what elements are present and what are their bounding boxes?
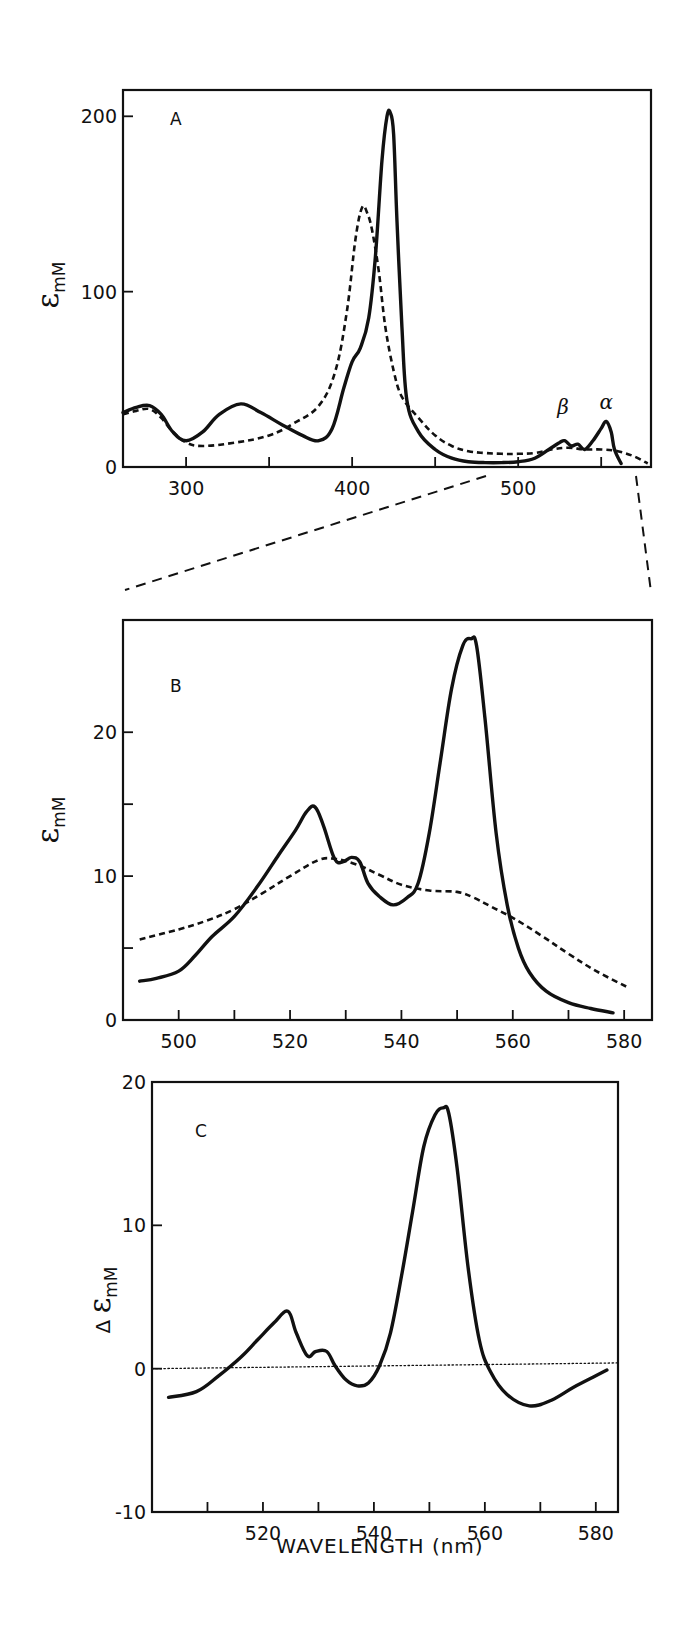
x-tick-label: 400 [334,477,370,499]
plot-frame [123,620,652,1020]
x-tick-label: 560 [495,1030,531,1052]
alpha-band-label: α [599,390,613,414]
y-axis-title: εmM [30,262,69,309]
spectra-figure: 3004005000100200AεmMβα 50052054056058001… [0,0,673,1641]
x-tick-label: 580 [578,1522,614,1544]
panel-letter: B [170,676,182,696]
x-tick-label: 500 [161,1030,197,1052]
y-tick-label: 0 [105,1009,117,1031]
y-tick-label: 10 [122,1214,146,1236]
y-tick-label: 10 [93,865,117,887]
x-tick-label: 580 [606,1030,642,1052]
series-dashed [123,206,648,464]
panel-letter: C [195,1121,207,1141]
y-axis-title: εmM [30,797,69,844]
x-tick-label: 300 [168,477,204,499]
x-tick-label: 500 [500,477,536,499]
x-tick-label: 520 [272,1030,308,1052]
y-tick-label: 0 [105,456,117,478]
beta-band-label: β [556,395,569,419]
y-tick-label: 200 [81,105,117,127]
series-dashed [140,858,630,988]
x-axis-title: WAVELENGTH (nm) [276,1534,483,1558]
panel-letter: A [170,109,182,129]
panel-c-chart: 520540560580-1001020CΔ εmM [82,1071,618,1544]
plot-frame [152,1082,618,1512]
y-tick-label: 100 [81,281,117,303]
panel-a-chart: 3004005000100200AεmMβα [30,90,651,499]
plot-frame [123,90,651,467]
series-zero-baseline [152,1363,618,1369]
series-solid [140,637,613,1013]
series-solid [123,110,621,463]
x-tick-label: 540 [383,1030,419,1052]
y-axis-title: Δ εmM [82,1267,121,1334]
y-tick-label: -10 [115,1501,146,1523]
y-tick-label: 0 [134,1358,146,1380]
y-tick-label: 20 [122,1071,146,1093]
y-tick-label: 20 [93,721,117,743]
panel-b-chart: 50052054056058001020BεmM [30,620,652,1052]
series-difference [169,1106,607,1406]
